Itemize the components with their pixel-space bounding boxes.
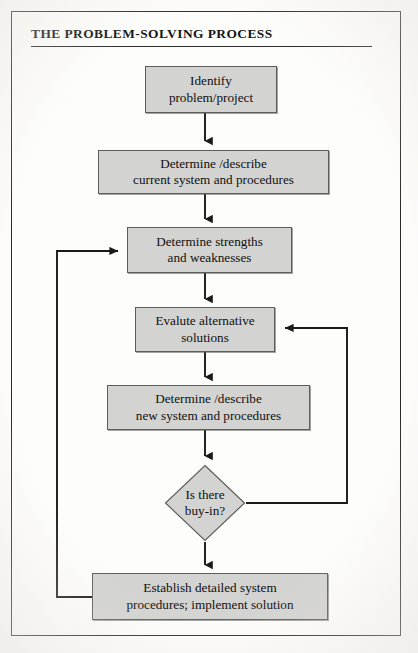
node-determine-strengths-label: Determine strengths and weaknesses — [156, 234, 263, 266]
node-determine-current-system[interactable]: Determine /describe current system and p… — [98, 150, 329, 194]
node-is-there-buyin[interactable]: Is there buy-in? — [164, 464, 246, 542]
figure-page: THE PROBLEM-SOLVING PROCESS — [0, 0, 418, 653]
node-establish-procedures[interactable]: Establish detailed system procedures; im… — [92, 573, 328, 620]
node-determine-current-system-label: Determine /describe current system and p… — [133, 156, 294, 188]
node-identify-label: Identify problem/project — [169, 73, 253, 105]
node-identify[interactable]: Identify problem/project — [145, 66, 277, 113]
node-determine-new-system[interactable]: Determine /describe new system and proce… — [107, 385, 310, 430]
node-determine-new-system-label: Determine /describe new system and proce… — [136, 391, 281, 423]
node-evaluate-alternatives-label: Evalute alternative solutions — [155, 313, 254, 345]
node-determine-strengths[interactable]: Determine strengths and weaknesses — [127, 227, 292, 273]
node-establish-procedures-label: Establish detailed system procedures; im… — [126, 580, 293, 612]
node-evaluate-alternatives[interactable]: Evalute alternative solutions — [135, 307, 275, 352]
diamond-shape — [164, 464, 246, 542]
